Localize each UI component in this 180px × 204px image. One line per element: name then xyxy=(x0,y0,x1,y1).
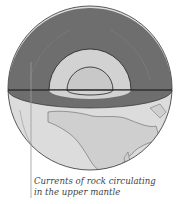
earth-interior-diagram: Currents of rock circulating in the uppe… xyxy=(0,0,180,204)
upper-mantle-label: Currents of rock circulating in the uppe… xyxy=(34,176,180,197)
globe-illustration xyxy=(0,0,180,204)
label-line-1: Currents of rock circulating xyxy=(34,176,180,187)
globe-surface xyxy=(0,0,180,204)
label-line-2: in the upper mantle xyxy=(34,187,180,198)
